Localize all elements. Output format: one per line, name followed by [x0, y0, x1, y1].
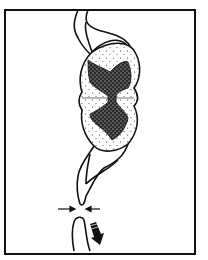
spinal-cord-diagram	[0, 0, 208, 260]
lower-nerve-root	[77, 144, 128, 205]
severed-nerve-stump	[73, 217, 91, 251]
downward-arrow-icon	[89, 222, 104, 245]
compression-arrows	[58, 207, 100, 212]
